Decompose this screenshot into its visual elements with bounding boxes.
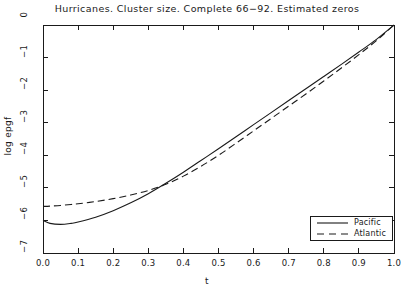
x-tick-label: 0.2 (98, 258, 128, 268)
x-tick-label: 0.0 (28, 258, 58, 268)
data-series-group (43, 25, 394, 224)
legend-label-atlantic: Atlantic (354, 229, 386, 238)
x-tick-label: 0.5 (204, 258, 234, 268)
y-tick-label: −5 (19, 175, 29, 199)
x-tick-label: 1.0 (379, 258, 409, 268)
x-tick-label: 0.4 (168, 258, 198, 268)
y-tick-label: 0 (19, 12, 29, 36)
x-axis-label: t (0, 276, 414, 286)
x-tick-label: 0.6 (239, 258, 269, 268)
y-tick-label: −7 (19, 240, 29, 264)
series-line-atlantic (43, 25, 394, 206)
legend-label-pacific: Pacific (354, 218, 381, 227)
y-tick-label: −4 (19, 142, 29, 166)
x-tick-label: 0.3 (133, 258, 163, 268)
x-tick-label: 0.7 (274, 258, 304, 268)
y-tick-label: −1 (19, 45, 29, 69)
plot-area (0, 0, 414, 293)
y-axis-label: log epgf (3, 106, 13, 166)
y-tick-label: −6 (19, 207, 29, 231)
y-tick-label: −3 (19, 110, 29, 134)
y-tick-label: −2 (19, 77, 29, 101)
x-tick-label: 0.8 (309, 258, 339, 268)
x-tick-label: 0.9 (344, 258, 374, 268)
x-tick-label: 0.1 (63, 258, 93, 268)
chart-figure: Hurricanes. Cluster size. Complete 66−92… (0, 0, 414, 293)
series-line-pacific (43, 25, 394, 224)
